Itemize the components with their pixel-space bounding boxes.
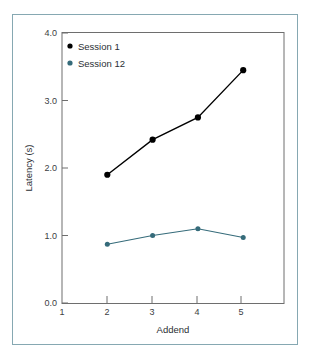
series-line: [107, 70, 243, 175]
data-series-layer: [104, 67, 246, 247]
x-axis-ticks: [107, 296, 241, 303]
x-axis-tick-labels: 1 2 3 4 5: [59, 307, 243, 317]
y-tick-label: 1.0: [44, 231, 57, 241]
data-point: [105, 242, 110, 247]
y-axis-title: Latency (s): [23, 145, 34, 192]
x-tick-label: 1: [59, 307, 64, 317]
legend-marker-session-1: [67, 43, 72, 48]
series-session-12: [105, 226, 246, 247]
data-point: [195, 226, 200, 231]
chart-legend: Session 1 Session 12: [67, 41, 125, 69]
x-tick-label: 2: [104, 307, 109, 317]
data-point: [150, 137, 156, 143]
legend-marker-session-12: [67, 60, 72, 65]
y-tick-label: 2.0: [44, 163, 57, 173]
data-point: [241, 235, 246, 240]
chart-canvas: 4.0 3.0 2.0 1.0 0.0 Latency (s) 1 2 3 4 …: [0, 0, 316, 360]
plot-frame: [62, 33, 284, 304]
x-tick-label: 3: [149, 307, 154, 317]
data-point: [240, 67, 246, 73]
data-point: [195, 114, 201, 120]
legend-label-session-12: Session 12: [78, 58, 125, 69]
series-session-1: [104, 67, 246, 178]
y-tick-label: 3.0: [44, 96, 57, 106]
data-point: [150, 233, 155, 238]
x-tick-label: 5: [238, 307, 243, 317]
y-tick-label: 4.0: [44, 28, 57, 38]
series-line: [107, 229, 243, 245]
figure-container: 4.0 3.0 2.0 1.0 0.0 Latency (s) 1 2 3 4 …: [0, 0, 316, 360]
x-tick-label: 4: [194, 307, 199, 317]
y-axis-tick-labels: 4.0 3.0 2.0 1.0 0.0: [44, 28, 57, 308]
data-point: [104, 172, 110, 178]
y-tick-label: 0.0: [44, 298, 57, 308]
x-axis-title: Addend: [157, 324, 190, 335]
y-axis-ticks: [62, 33, 68, 303]
legend-label-session-1: Session 1: [78, 41, 120, 52]
